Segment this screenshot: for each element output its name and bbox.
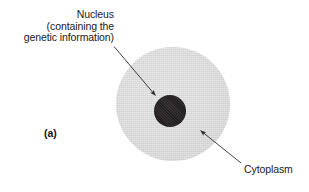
cytoplasm-label: Cytoplasm (244, 164, 293, 176)
nucleus-label-line-3: genetic information) (0, 32, 114, 44)
cytoplasm-leader-arrow (201, 131, 242, 164)
cell-diagram-figure: Nucleus (containing the genetic informat… (0, 0, 309, 192)
nucleus-label: Nucleus (containing the genetic informat… (0, 9, 114, 44)
nucleus-label-line-1: Nucleus (0, 9, 114, 21)
nucleus-leader-arrow (114, 47, 156, 96)
panel-letter: (a) (44, 127, 57, 139)
